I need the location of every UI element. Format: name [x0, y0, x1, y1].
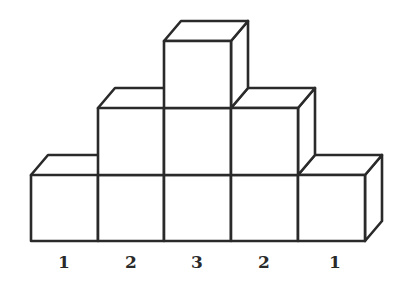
cube-front-face: [231, 175, 298, 241]
cube-front-face: [231, 108, 298, 175]
column-height-label: 2: [249, 252, 279, 272]
cube-front-face: [98, 175, 164, 241]
cube-front-face: [164, 175, 231, 241]
cube-pyramid: [0, 0, 397, 286]
column-height-label: 1: [49, 252, 79, 272]
cube-top-face: [98, 88, 164, 108]
column-height-label: 1: [320, 252, 350, 272]
cube-front-face: [298, 175, 365, 241]
column-height-label: 3: [182, 252, 212, 272]
cube-front-face: [31, 175, 98, 241]
cube-top-face: [31, 155, 98, 175]
column-height-label: 2: [116, 252, 146, 272]
cube-front-face: [164, 108, 231, 175]
cube-front-face: [164, 41, 231, 108]
cube-front-face: [98, 108, 164, 175]
